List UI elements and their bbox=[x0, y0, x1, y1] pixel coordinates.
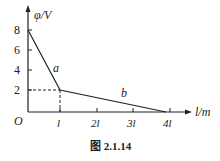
svg-text:8: 8 bbox=[14, 23, 20, 37]
svg-text:2l: 2l bbox=[91, 117, 100, 129]
segment-a-label: a bbox=[53, 61, 59, 75]
svg-text:4: 4 bbox=[14, 63, 20, 77]
y-axis-label: φ/V bbox=[34, 8, 53, 22]
svg-text:3l: 3l bbox=[126, 117, 136, 129]
svg-text:O: O bbox=[14, 114, 23, 128]
potential-line bbox=[28, 30, 166, 112]
segment-b-label: b bbox=[121, 86, 127, 100]
figure-caption: 图 2.1.14 bbox=[90, 140, 132, 152]
figure: φ/V 8 6 4 2 O l 2l 3l 4l l/m a b 图 2.1.1… bbox=[0, 0, 220, 161]
svg-text:4l: 4l bbox=[163, 117, 172, 129]
y-arrow-icon bbox=[26, 5, 31, 12]
svg-text:2: 2 bbox=[14, 83, 20, 97]
x-arrow-icon bbox=[185, 110, 192, 115]
svg-text:6: 6 bbox=[14, 43, 20, 57]
svg-text:l: l bbox=[57, 117, 60, 129]
x-axis-label: l/m bbox=[195, 105, 211, 119]
potential-graph: φ/V 8 6 4 2 O l 2l 3l 4l l/m a b 图 2.1.1… bbox=[0, 0, 220, 161]
